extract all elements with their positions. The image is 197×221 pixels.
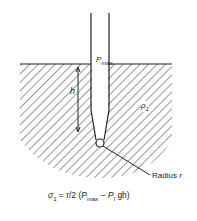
capillary-diagram: [0, 0, 197, 221]
pressure-label: Pmax: [96, 55, 113, 66]
height-label: h: [70, 86, 75, 96]
formula: σ1 = r/2 (Pmax − Pl gh): [48, 190, 130, 202]
radius-label: Radius r: [152, 171, 182, 180]
bubble: [96, 139, 104, 147]
density-label: ρ1: [141, 101, 149, 112]
